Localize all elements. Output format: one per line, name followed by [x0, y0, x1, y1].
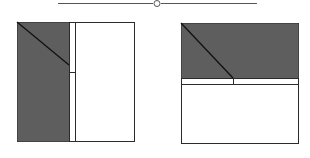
- filled-pane: [182, 24, 299, 79]
- splitter-bar[interactable]: [182, 79, 299, 85]
- diagram-canvas: [0, 0, 310, 158]
- filled-pane: [18, 23, 70, 142]
- vertical-split-diagram: [17, 22, 135, 142]
- slider-control[interactable]: [58, 1, 257, 7]
- circle-handle-icon[interactable]: [154, 1, 160, 7]
- horizontal-split-diagram: [181, 23, 299, 144]
- splitter-bar[interactable]: [70, 23, 76, 142]
